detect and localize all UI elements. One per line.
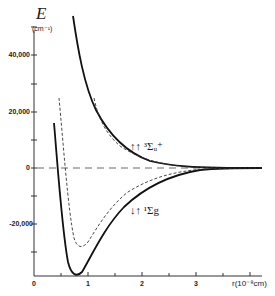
triplet-approx-curve [94,98,262,168]
potential-energy-plot [0,0,275,296]
x-ticks [61,272,250,276]
triplet-exact-curve [73,16,262,168]
singlet-approx-curve [59,98,262,247]
singlet-exact-curve [54,123,262,275]
